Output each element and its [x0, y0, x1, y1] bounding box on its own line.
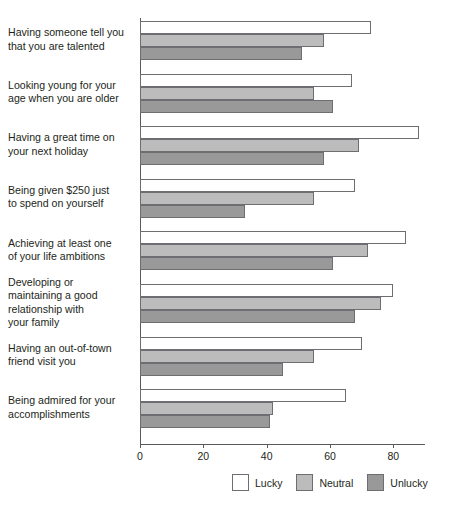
category-label-line: Having an out-of-town	[8, 342, 134, 355]
bar-unlucky	[140, 47, 302, 60]
category-label-line: to spend on yourself	[8, 197, 134, 210]
bar-neutral	[140, 297, 381, 310]
bar-neutral	[140, 139, 359, 152]
bar-unlucky	[140, 100, 333, 113]
category-label-line: Being admired for your	[8, 394, 134, 407]
legend: LuckyNeutralUnlucky	[232, 474, 442, 491]
bar-lucky	[140, 284, 393, 297]
bar-lucky	[140, 126, 419, 139]
category-label-line: of your life ambitions	[8, 250, 134, 263]
bar-lucky	[140, 231, 406, 244]
legend-item-neutral[interactable]: Neutral	[296, 474, 353, 491]
category-label-line: Looking young for your	[8, 79, 134, 92]
category-label-line: friend visit you	[8, 355, 134, 368]
category-label-line: Having a great time on	[8, 131, 134, 144]
category-label-line: age when you are older	[8, 92, 134, 105]
bar-neutral	[140, 402, 273, 415]
legend-item-lucky[interactable]: Lucky	[232, 474, 282, 491]
legend-label: Unlucky	[390, 477, 427, 489]
x-axis-tick-label: 40	[252, 450, 282, 462]
x-axis-tick-label: 80	[378, 450, 408, 462]
x-axis-tick	[203, 444, 204, 448]
legend-label: Neutral	[319, 477, 353, 489]
x-axis-tick-label: 60	[315, 450, 345, 462]
bar-unlucky	[140, 152, 324, 165]
bar-unlucky	[140, 257, 333, 270]
category-label-line: maintaining a good	[8, 289, 134, 302]
category-label: Being admired for youraccomplishments	[8, 394, 134, 421]
bar-neutral	[140, 244, 368, 257]
category-label: Developing ormaintaining a goodrelations…	[8, 276, 134, 330]
x-axis-line	[140, 444, 425, 445]
x-axis-tick-label: 20	[188, 450, 218, 462]
bar-neutral	[140, 350, 314, 363]
category-label: Having someone tell youthat you are tale…	[8, 26, 134, 53]
category-label-line: that you are talented	[8, 40, 134, 53]
category-label: Having a great time onyour next holiday	[8, 131, 134, 158]
bar-lucky	[140, 389, 346, 402]
category-label: Being given $250 justto spend on yoursel…	[8, 184, 134, 211]
category-label-line: Achieving at least one	[8, 237, 134, 250]
category-label-line: your next holiday	[8, 145, 134, 158]
legend-swatch-unlucky	[367, 474, 384, 491]
bar-lucky	[140, 179, 355, 192]
bar-lucky	[140, 21, 371, 34]
bar-lucky	[140, 337, 362, 350]
bar-neutral	[140, 34, 324, 47]
category-label: Having an out-of-townfriend visit you	[8, 342, 134, 369]
bar-unlucky	[140, 363, 283, 376]
bar-unlucky	[140, 415, 270, 428]
category-label: Looking young for yourage when you are o…	[8, 79, 134, 106]
legend-swatch-neutral	[296, 474, 313, 491]
x-axis-tick	[330, 444, 331, 448]
x-axis-tick	[393, 444, 394, 448]
bar-unlucky	[140, 205, 245, 218]
category-label-line: Having someone tell you	[8, 26, 134, 39]
bar-neutral	[140, 192, 314, 205]
bar-unlucky	[140, 310, 355, 323]
x-axis-tick-label: 0	[125, 450, 155, 462]
x-axis-tick	[267, 444, 268, 448]
category-label-line: Being given $250 just	[8, 184, 134, 197]
category-label: Achieving at least oneof your life ambit…	[8, 237, 134, 264]
legend-item-unlucky[interactable]: Unlucky	[367, 474, 427, 491]
grouped-bar-chart: 020406080 Having someone tell youthat yo…	[0, 0, 454, 517]
category-label-line: Developing or	[8, 276, 134, 289]
category-label-line: relationship with	[8, 303, 134, 316]
bar-neutral	[140, 87, 314, 100]
category-label-line: accomplishments	[8, 408, 134, 421]
bar-lucky	[140, 74, 352, 87]
legend-swatch-lucky	[232, 474, 249, 491]
category-label-line: your family	[8, 316, 134, 329]
legend-label: Lucky	[255, 477, 282, 489]
x-axis-tick	[140, 444, 141, 448]
